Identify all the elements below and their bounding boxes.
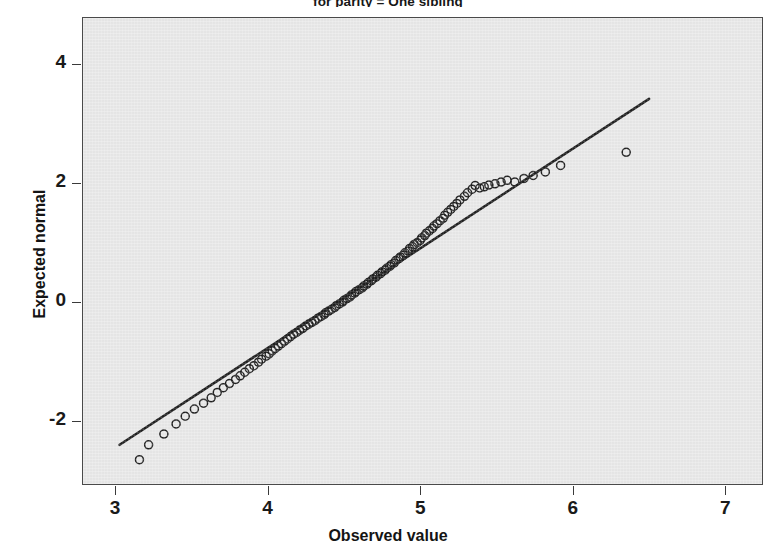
qq-plot-figure: for parity = One sibling 34567 420-2 Obs… <box>0 0 776 555</box>
data-point <box>622 148 630 156</box>
x-tick-label: 7 <box>703 497 747 519</box>
data-point <box>135 456 143 464</box>
data-point <box>181 412 189 420</box>
y-tick-mark <box>72 421 81 422</box>
data-point <box>557 161 565 169</box>
data-point <box>172 420 180 428</box>
x-tick-label: 3 <box>93 497 137 519</box>
y-tick-label: -2 <box>22 408 66 430</box>
data-point <box>160 430 168 438</box>
data-point <box>541 168 549 176</box>
data-point <box>190 405 198 413</box>
y-axis-title: Expected normal <box>31 124 49 384</box>
data-point <box>511 178 519 186</box>
x-axis-title: Observed value <box>0 527 776 545</box>
data-point <box>200 399 208 407</box>
x-tick-mark <box>725 486 726 495</box>
plot-canvas <box>83 18 762 484</box>
y-tick-mark <box>72 183 81 184</box>
y-tick-mark <box>72 302 81 303</box>
data-points <box>135 148 630 463</box>
x-tick-mark <box>420 486 421 495</box>
chart-title: for parity = One sibling <box>0 0 776 7</box>
plot-panel <box>82 17 763 485</box>
data-point <box>145 441 153 449</box>
y-tick-label: 4 <box>22 51 66 73</box>
x-tick-mark <box>573 486 574 495</box>
x-tick-mark <box>115 486 116 495</box>
x-tick-mark <box>268 486 269 495</box>
x-tick-label: 4 <box>246 497 290 519</box>
x-tick-label: 5 <box>398 497 442 519</box>
x-tick-label: 6 <box>551 497 595 519</box>
y-tick-mark <box>72 64 81 65</box>
